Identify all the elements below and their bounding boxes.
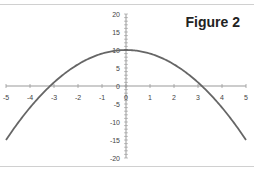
x-tick-label: -1 [99,94,105,101]
x-tick-label: 1 [148,94,152,101]
y-tick-label: 5 [116,65,120,72]
y-tick-label: 20 [112,11,120,18]
x-tick-label: 5 [244,94,248,101]
x-tick-label: -5 [3,94,9,101]
x-tick-label: 0 [124,94,128,101]
x-tick-label: 2 [172,94,176,101]
y-tick-label: -5 [114,101,120,108]
x-tick-label: 4 [220,94,224,101]
x-tick-label: -4 [27,94,33,101]
x-tick-label: -2 [75,94,81,101]
chart-title: Figure 2 [186,14,240,30]
x-tick-label: 3 [196,94,200,101]
y-tick-label: -15 [110,137,120,144]
y-tick-label: -20 [110,155,120,162]
x-tick-label: -3 [51,94,57,101]
y-tick-label: -10 [110,119,120,126]
y-tick-label: 15 [112,29,120,36]
y-tick-label: 0 [116,83,120,90]
